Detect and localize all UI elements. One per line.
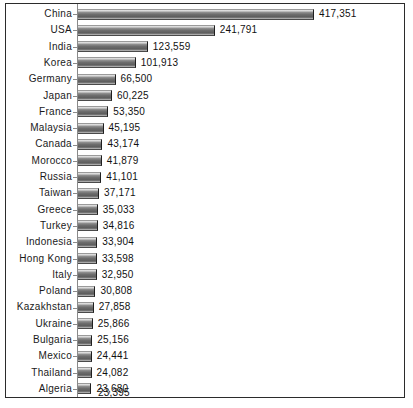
axis-tick [73,14,77,15]
bar-value-label: 33,598 [102,251,134,267]
bar-row: China417,351 [6,6,404,22]
bar [78,335,92,346]
category-label: Greece [6,202,72,218]
bar-row: Japan60,225 [6,88,404,104]
category-label: USA [6,22,72,38]
bar-value-label: 60,225 [117,88,149,104]
bar [78,318,93,329]
category-label: Malaysia [6,120,72,136]
bar [78,220,98,231]
axis-tick [73,79,77,80]
category-label: Turkey [6,218,72,234]
category-label: Canada [6,136,72,152]
bar [78,74,116,85]
axis-tick [73,226,77,227]
axis-tick [73,259,77,260]
bar-value-label: 45,195 [109,120,141,136]
bar [78,172,101,183]
bar-row: Taiwan37,171 [6,185,404,201]
category-label: Bulgaria [6,332,72,348]
category-label: Mexico [6,348,72,364]
bar [78,139,102,150]
axis-tick [73,308,77,309]
bar-row: Mexico24,441 [6,348,404,364]
bar-row: Canada43,174 [6,136,404,152]
bar-value-label: 24,082 [97,365,129,381]
axis-tick [73,30,77,31]
bar [78,123,104,134]
bar [78,9,314,20]
bar-row: USA241,791 [6,22,404,38]
bar [78,383,91,394]
category-label: China [6,6,72,22]
bar-row: Algeria23,680 [6,381,404,397]
category-label: Italy [6,267,72,283]
axis-tick [73,96,77,97]
axis-tick [73,275,77,276]
category-label: India [6,39,72,55]
bar [78,237,97,248]
axis-tick [73,145,77,146]
bar-row: Spain23,395 [6,397,404,398]
bar [78,41,148,52]
axis-tick [73,210,77,211]
bar-row: Poland30,808 [6,283,404,299]
category-label: Korea [6,55,72,71]
bar [78,57,136,68]
axis-tick [73,63,77,64]
bar-value-label: 123,559 [153,39,191,55]
bar-row: Morocco41,879 [6,153,404,169]
bar-row: Ukraine25,866 [6,316,404,332]
bar-row: Indonesia33,904 [6,234,404,250]
bar-value-label: 32,950 [102,267,134,283]
bar-row: France53,350 [6,104,404,120]
axis-tick [73,389,77,390]
bar-value-label: 35,033 [103,202,135,218]
chart-frame: China417,351USA241,791India123,559Korea1… [5,3,405,398]
axis-tick [73,47,77,48]
bar [78,302,94,313]
axis-tick [73,161,77,162]
bar-row: Kazakhstan27,858 [6,299,404,315]
axis-tick [73,340,77,341]
axis-tick [73,373,77,374]
bar-value-label: 23,395 [98,388,130,398]
bar-row: Russia41,101 [6,169,404,185]
axis-tick [73,291,77,292]
axis-tick [73,112,77,113]
bar-value-label: 33,904 [102,234,134,250]
bar-row: India123,559 [6,39,404,55]
bar [78,204,98,215]
category-label: Hong Kong [6,251,72,267]
category-label: Morocco [6,153,72,169]
bar [78,90,112,101]
bar-value-label: 37,171 [104,185,136,201]
axis-tick [73,242,77,243]
bar-value-label: 25,866 [98,316,130,332]
bar [78,367,92,378]
bar-row: Greece35,033 [6,202,404,218]
category-label: Spain [6,397,72,398]
bar-value-label: 25,156 [97,332,129,348]
category-label: Poland [6,283,72,299]
bar-row: Bulgaria25,156 [6,332,404,348]
category-label: Germany [6,71,72,87]
bar-row: Korea101,913 [6,55,404,71]
axis-tick [73,193,77,194]
axis-tick [73,177,77,178]
bar [78,188,99,199]
bar [78,155,102,166]
bar-value-label: 417,351 [319,6,357,22]
bar-row: Germany66,500 [6,71,404,87]
category-label: France [6,104,72,120]
bar [78,106,108,117]
category-label: Taiwan [6,185,72,201]
category-label: Japan [6,88,72,104]
bar [78,286,95,297]
bar-value-label: 43,174 [107,136,139,152]
bar-value-label: 101,913 [141,55,179,71]
bar [78,25,215,36]
bar-value-label: 41,101 [106,169,138,185]
bar-value-label: 41,879 [107,153,139,169]
axis-tick [73,324,77,325]
